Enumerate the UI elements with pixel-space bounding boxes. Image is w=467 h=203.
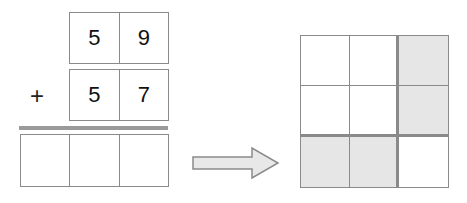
result-hundreds [21,135,69,186]
grid-cell [350,36,399,86]
right-arrow-icon [192,147,282,179]
grid-cell [399,137,448,187]
grid-cell [301,36,350,86]
grid-cell [350,86,399,136]
addend2-box: 5 7 [69,69,169,121]
addend1-tens: 5 [70,13,119,63]
grid-cell-shaded [399,86,448,136]
grid-cell-shaded [350,137,399,187]
grid-cell-shaded [399,36,448,86]
result-ones [119,135,168,186]
addend2-tens: 5 [70,70,119,120]
plus-sign: + [30,82,44,110]
addend1-box: 5 9 [69,12,169,64]
sum-line [19,126,168,130]
addend2-ones: 7 [119,70,169,120]
addend1-ones: 9 [119,13,169,63]
result-tens [69,135,118,186]
shading-grid [300,35,449,188]
grid-cell [301,86,350,136]
grid-cell-shaded [301,137,350,187]
result-box [20,134,169,187]
